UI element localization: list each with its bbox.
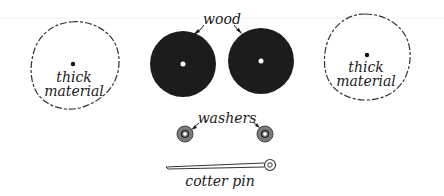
washer-right — [257, 126, 273, 142]
left-material-label-line2: material — [44, 84, 104, 98]
wood-disc-left — [150, 31, 216, 97]
left-material-label-line1: thick — [44, 70, 104, 84]
left-material-label: thick material — [44, 70, 104, 98]
right-material-label: thick material — [335, 60, 397, 88]
wood-disc-right — [228, 28, 294, 94]
washers-label: washers — [197, 111, 257, 125]
wood-label: wood — [202, 12, 242, 26]
cotter-pin-label: cotter pin — [180, 174, 260, 188]
right-material-label-line2: material — [335, 74, 397, 88]
right-material-label-line1: thick — [335, 60, 397, 74]
washer-left — [177, 126, 193, 142]
cotter-pin — [166, 160, 276, 171]
